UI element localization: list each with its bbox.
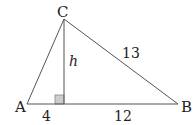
segment-left-length: 4: [42, 108, 51, 124]
segment-right-length: 12: [114, 108, 132, 124]
right-angle-marker: [55, 95, 64, 104]
vertex-label-b: B: [181, 98, 192, 116]
side-bc: [64, 19, 178, 104]
vertex-label-c: C: [57, 3, 68, 21]
side-bc-length: 13: [122, 45, 140, 61]
altitude-label-h: h: [69, 53, 78, 69]
side-ac: [27, 19, 64, 104]
vertex-label-a: A: [14, 98, 26, 116]
triangle-diagram: C A B h 13 4 12: [0, 0, 195, 125]
